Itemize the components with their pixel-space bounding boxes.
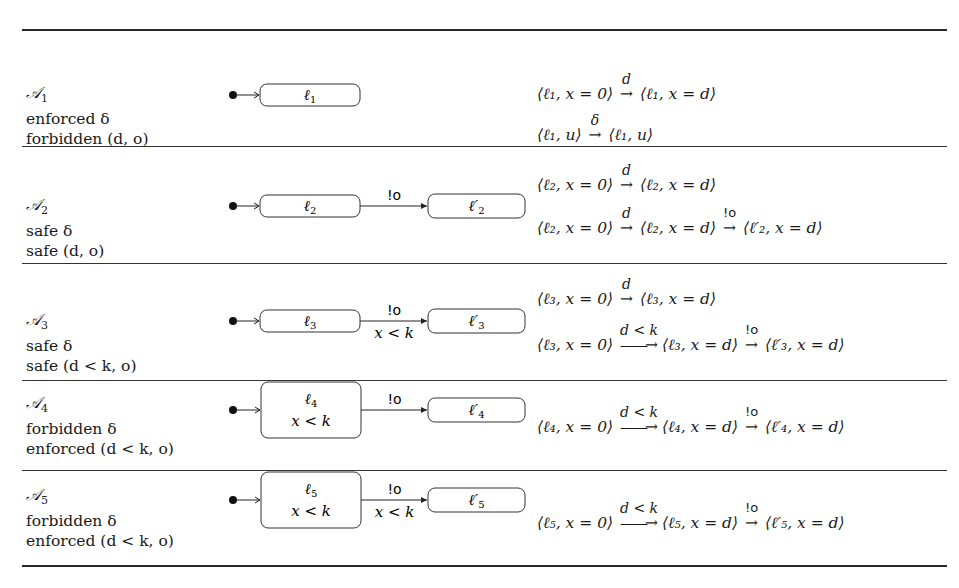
initial-state-dot: [229, 91, 237, 99]
run-formula: ⟨ℓ₁, u⟩ δ→ ⟨ℓ₁, u⟩: [537, 125, 653, 145]
automaton-description: 𝒜1enforced δforbidden (d, o): [26, 83, 149, 149]
arrow-head: [421, 203, 427, 209]
output-property-text: forbidden (d, o): [26, 130, 149, 148]
configuration: ⟨ℓ₁, u⟩: [608, 126, 653, 144]
arrow-head: [421, 318, 427, 324]
automaton-index: 1: [41, 92, 48, 105]
initial-state-dot: [229, 317, 237, 325]
output-property: forbidden (d, o): [26, 129, 149, 149]
delay-property-text: forbidden δ: [26, 420, 117, 438]
delay-property-text: safe δ: [26, 222, 72, 240]
automaton-symbol: 𝒜: [26, 485, 41, 504]
arrow-label: d: [620, 69, 633, 89]
run-formula: ⟨ℓ₂, x = 0⟩ d→ ⟨ℓ₂, x = d⟩: [537, 175, 716, 195]
configuration: ⟨ℓ₄, x = 0⟩: [537, 418, 613, 436]
transition-arrow: δ→: [589, 125, 602, 145]
automaton-index: 4: [41, 402, 48, 415]
configuration: ⟨ℓ₄, x = d⟩: [662, 418, 738, 436]
output-property-text: safe (d, o): [26, 242, 104, 260]
automaton-name: 𝒜2: [26, 195, 104, 221]
automaton-symbol: 𝒜: [26, 83, 41, 102]
configuration: ⟨ℓ₁, x = d⟩: [640, 85, 716, 103]
automaton-name: 𝒜4: [26, 393, 174, 419]
initial-state-dot: [229, 202, 237, 210]
transition-arrow: d→: [620, 175, 633, 195]
delay-property: forbidden δ: [26, 419, 174, 439]
delay-property: safe δ: [26, 336, 136, 356]
delay-property-text: forbidden δ: [26, 512, 117, 530]
initial-state-dot: [229, 406, 237, 414]
automaton-subscript: 5: [41, 494, 48, 507]
automaton-name: 𝒜3: [26, 310, 136, 336]
configuration: ⟨ℓ′₄, x = d⟩: [765, 418, 845, 436]
configuration: ⟨ℓ₁, x = 0⟩: [537, 85, 613, 103]
automaton-description: 𝒜5forbidden δenforced (d < k, o): [26, 485, 174, 551]
transition-arrow: !o→: [745, 513, 758, 533]
arrow-head: [421, 407, 427, 413]
arrow-label: !o: [745, 402, 758, 422]
automaton-description: 𝒜2safe δsafe (d, o): [26, 195, 104, 261]
transition-guard: x < k: [374, 324, 414, 342]
location-invariant: x < k: [291, 502, 331, 520]
output-property: enforced (d < k, o): [26, 531, 174, 551]
run-formula: ⟨ℓ₁, x = 0⟩ d→ ⟨ℓ₁, x = d⟩: [537, 84, 716, 104]
transition-arrow: d→: [620, 84, 633, 104]
configuration: ⟨ℓ₃, x = 0⟩: [537, 290, 613, 308]
automaton-svg: ℓ4x < k!oℓ′4: [222, 378, 532, 442]
configuration: ⟨ℓ₂, x = 0⟩: [537, 176, 613, 194]
arrow-label: d < k: [620, 320, 655, 340]
automaton-subscript: 1: [41, 92, 48, 105]
transition-action: !o: [387, 481, 401, 497]
arrow-label: δ: [589, 110, 602, 130]
configuration: ⟨ℓ₂, x = 0⟩: [537, 219, 613, 237]
output-property-text: enforced (d < k, o): [26, 532, 174, 550]
automaton-index: 2: [41, 204, 48, 217]
configuration: ⟨ℓ₃, x = d⟩: [640, 290, 716, 308]
arrow-label: d < k: [620, 402, 655, 422]
transition-arrow: d→: [620, 289, 633, 309]
output-property: enforced (d < k, o): [26, 439, 174, 459]
automaton-subscript: 2: [41, 204, 48, 217]
transition-arrow: !o→: [745, 417, 758, 437]
delay-property-text: safe δ: [26, 337, 72, 355]
transition-arrow: !o→: [745, 335, 758, 355]
arrow-label: !o: [723, 203, 736, 223]
automaton-diagram: ℓ1: [222, 75, 532, 119]
configuration: ⟨ℓ′₅, x = d⟩: [765, 514, 845, 532]
configuration: ⟨ℓ₃, x = 0⟩: [537, 336, 613, 354]
arrow-label: d: [620, 274, 633, 294]
transition-arrow: d < k——→: [620, 335, 655, 355]
row-separator: [22, 263, 947, 264]
automaton-symbol: 𝒜: [26, 393, 41, 412]
automaton-svg: ℓ5x < k!ox < kℓ′5: [222, 468, 532, 532]
automaton-svg: ℓ3!ox < kℓ′3: [222, 301, 532, 341]
delay-property: safe δ: [26, 221, 104, 241]
configuration: ⟨ℓ′₂, x = d⟩: [743, 219, 823, 237]
arrow-head: [421, 497, 427, 503]
delay-property: enforced δ: [26, 109, 149, 129]
automaton-diagram: ℓ3!ox < kℓ′3: [222, 301, 532, 345]
automaton-subscript: 4: [41, 402, 48, 415]
configuration: ⟨ℓ₁, u⟩: [537, 126, 582, 144]
arrow-label: !o: [745, 320, 758, 340]
arrow-label: d: [620, 160, 633, 180]
transition-arrow: !o→: [723, 218, 736, 238]
transition-action: !o: [387, 302, 401, 318]
transition-arrow: d < k——→: [620, 417, 655, 437]
automaton-subscript: 3: [41, 319, 48, 332]
transition-guard: x < k: [375, 503, 415, 521]
automaton-name: 𝒜1: [26, 83, 149, 109]
configuration: ⟨ℓ₂, x = d⟩: [640, 176, 716, 194]
output-property-text: enforced (d < k, o): [26, 440, 174, 458]
table-top-rule: [22, 29, 947, 31]
automaton-diagram: ℓ2!oℓ′2: [222, 186, 532, 230]
automaton-index: 3: [41, 319, 48, 332]
location-invariant: x < k: [291, 412, 331, 430]
configuration: ⟨ℓ₂, x = d⟩: [640, 219, 716, 237]
run-formula: ⟨ℓ₅, x = 0⟩ d < k——→ ⟨ℓ₅, x = d⟩ !o→ ⟨ℓ′…: [537, 513, 845, 533]
run-formula: ⟨ℓ₃, x = 0⟩ d→ ⟨ℓ₃, x = d⟩: [537, 289, 716, 309]
automaton-symbol: 𝒜: [26, 195, 41, 214]
transition-action: !o: [387, 391, 401, 407]
configuration: ⟨ℓ′₃, x = d⟩: [765, 336, 845, 354]
delay-property-text: enforced δ: [26, 110, 110, 128]
